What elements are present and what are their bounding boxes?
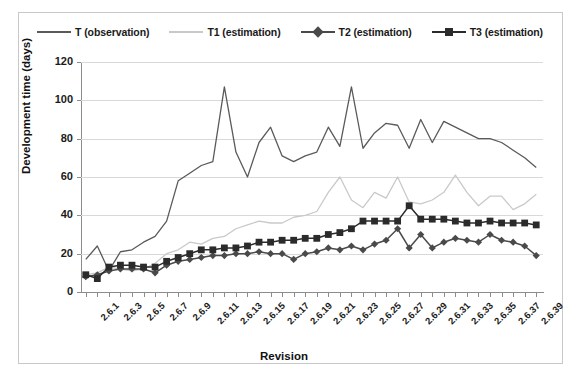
y-tick-label: 80: [33, 132, 73, 144]
data-point-marker: [221, 245, 228, 252]
data-point-marker: [198, 246, 205, 253]
legend-item-3[interactable]: T2 (estimation): [301, 26, 412, 38]
x-tick-mark: [467, 293, 468, 297]
data-point-marker: [440, 216, 447, 223]
data-point-marker: [163, 258, 170, 265]
series-t3: [82, 202, 539, 282]
data-point-marker: [475, 220, 482, 227]
data-point-marker: [452, 235, 459, 242]
x-tick-mark: [167, 293, 168, 297]
x-tick-mark: [317, 293, 318, 297]
series-layer: [81, 62, 543, 292]
y-axis-title: Development time (days): [20, 6, 32, 206]
legend-swatch-icon: [301, 26, 335, 38]
data-point-marker: [267, 239, 274, 246]
x-tick-mark: [305, 293, 306, 297]
data-point-marker: [371, 240, 378, 247]
data-point-marker: [348, 242, 355, 249]
data-point-marker: [221, 252, 228, 259]
x-tick-mark: [294, 293, 295, 297]
plot-area: [81, 62, 543, 292]
data-point-marker: [233, 245, 240, 252]
data-point-marker: [440, 239, 447, 246]
legend-label: T3 (estimation): [470, 26, 543, 38]
legend-item-4[interactable]: T3 (estimation): [432, 26, 543, 38]
x-tick-mark: [351, 293, 352, 297]
x-tick-mark: [536, 293, 537, 297]
x-tick-mark: [455, 293, 456, 297]
data-point-marker: [371, 218, 378, 225]
y-tick-label: 20: [33, 247, 73, 259]
x-tick-mark: [236, 293, 237, 297]
x-tick-mark: [190, 293, 191, 297]
legend-swatch-icon: [432, 26, 466, 38]
series-line: [86, 87, 536, 271]
legend-swatch-icon: [169, 26, 203, 38]
data-point-marker: [487, 218, 494, 225]
series-t2: [82, 225, 540, 280]
data-point-marker: [464, 220, 471, 227]
data-point-marker: [105, 264, 112, 271]
data-point-marker: [290, 237, 297, 244]
x-tick-mark: [525, 293, 526, 297]
x-tick-mark: [282, 293, 283, 297]
y-tick-label: 60: [33, 170, 73, 182]
data-point-marker: [117, 262, 124, 269]
data-point-marker: [186, 250, 193, 257]
data-point-marker: [498, 237, 505, 244]
x-tick-mark: [144, 293, 145, 297]
x-tick-mark: [259, 293, 260, 297]
x-tick-mark: [421, 293, 422, 297]
x-tick-mark: [120, 293, 121, 297]
data-point-marker: [279, 237, 286, 244]
legend-label: T2 (estimation): [339, 26, 412, 38]
x-tick-mark: [478, 293, 479, 297]
data-point-marker: [498, 220, 505, 227]
x-axis-line: [81, 292, 544, 293]
data-point-marker: [463, 237, 470, 244]
data-point-marker: [290, 256, 297, 263]
x-tick-mark: [490, 293, 491, 297]
y-tick-label: 40: [33, 208, 73, 220]
data-point-marker: [336, 246, 343, 253]
data-point-marker: [255, 248, 262, 255]
x-tick-mark: [155, 293, 156, 297]
x-tick-mark: [247, 293, 248, 297]
data-point-marker: [394, 218, 401, 225]
data-point-marker: [359, 246, 366, 253]
x-tick-mark: [97, 293, 98, 297]
data-point-marker: [244, 250, 251, 257]
legend-item-1[interactable]: T (observation): [37, 26, 149, 38]
legend-item-2[interactable]: T1 (estimation): [169, 26, 280, 38]
legend-label: T1 (estimation): [207, 26, 280, 38]
data-point-marker: [406, 202, 413, 209]
x-axis-title: Revision: [260, 350, 308, 362]
data-point-marker: [152, 264, 159, 271]
x-tick-mark: [502, 293, 503, 297]
data-point-marker: [129, 262, 136, 269]
data-point-marker: [302, 235, 309, 242]
data-point-marker: [267, 250, 274, 257]
legend-swatch-icon: [37, 26, 71, 38]
chart-figure: T (observation)T1 (estimation)T2 (estima…: [0, 0, 579, 384]
data-point-marker: [510, 239, 517, 246]
data-point-marker: [533, 222, 540, 229]
data-point-marker: [256, 239, 263, 246]
data-point-marker: [360, 218, 367, 225]
x-tick-mark: [398, 293, 399, 297]
y-tick-mark: [77, 292, 81, 293]
data-point-marker: [279, 250, 286, 257]
x-tick-mark: [444, 293, 445, 297]
x-tick-mark: [340, 293, 341, 297]
data-point-marker: [510, 220, 517, 227]
x-tick-mark: [409, 293, 410, 297]
data-point-marker: [325, 231, 332, 238]
x-tick-mark: [432, 293, 433, 297]
x-tick-mark: [132, 293, 133, 297]
data-point-marker: [313, 248, 320, 255]
data-point-marker: [244, 243, 251, 250]
x-tick-mark: [386, 293, 387, 297]
data-point-marker: [313, 235, 320, 242]
data-point-marker: [383, 218, 390, 225]
x-tick-mark: [86, 293, 87, 297]
